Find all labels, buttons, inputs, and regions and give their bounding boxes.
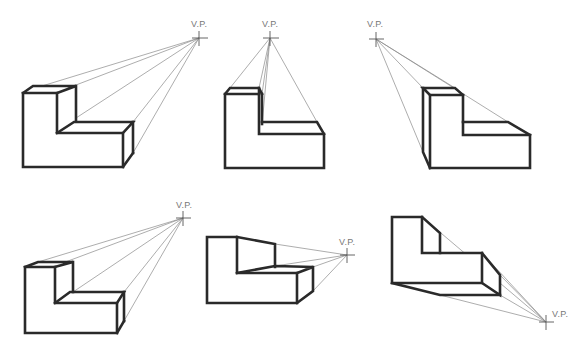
l-block	[392, 217, 500, 295]
vp-label: V.P.	[176, 200, 192, 210]
vanishing-point: V.P.	[339, 237, 355, 263]
perspective-diagram: V.P. V.P.	[0, 0, 585, 356]
drawing-2: V.P.	[225, 19, 324, 168]
vp-label: V.P.	[552, 309, 568, 319]
drawing-1: V.P.	[23, 19, 208, 167]
vp-label: V.P.	[191, 19, 207, 29]
drawing-6: V.P.	[392, 217, 568, 330]
drawing-3: V.P.	[367, 19, 530, 168]
vp-label: V.P.	[367, 19, 383, 29]
l-block	[225, 88, 324, 168]
l-block	[423, 88, 530, 168]
vanishing-point: V.P.	[262, 19, 279, 46]
drawing-4: V.P.	[25, 200, 192, 333]
l-block	[23, 86, 133, 167]
drawing-5: V.P.	[207, 237, 355, 303]
l-block	[207, 237, 313, 303]
l-block	[25, 262, 124, 333]
vp-label: V.P.	[262, 19, 278, 29]
vanishing-point: V.P.	[176, 200, 192, 226]
vp-label: V.P.	[339, 237, 355, 247]
